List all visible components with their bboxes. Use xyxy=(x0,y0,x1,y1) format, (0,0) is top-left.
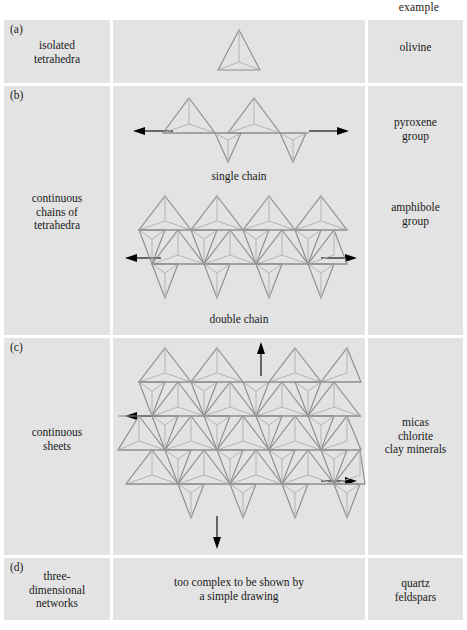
figure-header: example xyxy=(0,0,467,20)
tetrahedron-up xyxy=(321,348,361,382)
tetrahedron-down xyxy=(295,230,321,264)
row-a-structure-cell: (a) isolated tetrahedra xyxy=(4,20,110,83)
tetrahedron-up xyxy=(308,382,360,416)
tetrahedron-down xyxy=(165,450,191,484)
tetrahedron-down xyxy=(191,382,217,416)
tetrahedron-up xyxy=(126,450,178,484)
tetrahedron-up xyxy=(256,230,308,264)
row-d-example-cell: quartz feldspars xyxy=(368,558,463,620)
tetrahedron-down xyxy=(295,382,321,416)
row-b-label: (b) xyxy=(10,89,23,101)
up-arrow-icon xyxy=(257,342,265,376)
row-d-diagram-text: too complex to be shown by a simple draw… xyxy=(113,576,365,603)
tetrahedron-up xyxy=(152,382,204,416)
tetrahedron-up xyxy=(269,348,321,382)
tetrahedron-up xyxy=(139,348,191,382)
tetrahedron-up xyxy=(139,196,191,230)
tetrahedron-up xyxy=(178,450,230,484)
tetrahedron-up xyxy=(191,348,243,382)
tetrahedron-up xyxy=(191,196,243,230)
tetrahedron-down xyxy=(204,416,230,450)
row-c-example-text: micas chlorite clay minerals xyxy=(368,416,463,457)
structures-table: (a) isolated tetrahedra olivine (b) cont… xyxy=(4,20,463,624)
tetrahedron-up xyxy=(256,382,308,416)
tetrahedron-up xyxy=(295,196,347,230)
tetrahedron-down xyxy=(308,264,334,298)
tetrahedron-down xyxy=(204,264,230,298)
tetrahedron-down xyxy=(256,416,282,450)
tetrahedron-up xyxy=(204,382,256,416)
tetrahedron-down xyxy=(256,264,282,298)
row-d-structure-text: three- dimensional networks xyxy=(4,570,110,611)
tetrahedron-down xyxy=(282,484,308,518)
tetrahedron-up xyxy=(163,98,215,133)
row-d-structure-cell: (d) three- dimensional networks xyxy=(4,558,110,620)
tetrahedron-down xyxy=(334,484,360,518)
tetrahedron-up xyxy=(204,230,256,264)
row-b-example-amphibole: amphibole group xyxy=(368,201,463,228)
tetrahedron-up xyxy=(228,98,280,133)
tetrahedron-down xyxy=(269,450,295,484)
row-c-structure-text: continuous sheets xyxy=(4,426,110,453)
tetrahedron-down xyxy=(230,484,256,518)
row-a-example-text: olivine xyxy=(368,41,463,55)
single-chain-caption: single chain xyxy=(113,170,365,182)
silicate-structures-figure: example (a) isolated tetrahedra olivine xyxy=(0,0,467,630)
row-b-structure-text: continuous chains of tetrahedra xyxy=(4,192,110,233)
tetrahedron-up xyxy=(217,416,269,450)
tetrahedron-down xyxy=(139,230,165,264)
tetrahedron-up xyxy=(282,450,334,484)
row-b-example-pyroxene: pyroxene group xyxy=(368,116,463,143)
row-b-structure-cell: (b) continuous chains of tetrahedra xyxy=(4,86,110,335)
tetrahedron-up xyxy=(334,450,365,484)
tetrahedron-up xyxy=(152,230,204,264)
tetrahedron-up xyxy=(269,416,321,450)
continuous-sheet-diagram xyxy=(113,338,365,555)
row-c-diagram-cell xyxy=(113,338,365,555)
tetrahedron-down xyxy=(280,133,306,162)
tetrahedron-down xyxy=(139,382,165,416)
down-arrow-icon xyxy=(213,516,221,549)
tetrahedron-glyph xyxy=(218,30,260,70)
row-a-diagram-cell xyxy=(113,20,365,83)
row-d-example-text: quartz feldspars xyxy=(368,577,463,604)
header-example-label: example xyxy=(371,1,467,13)
tetrahedron-up xyxy=(165,416,217,450)
row-c-structure-cell: (c) continuous sheets xyxy=(4,338,110,555)
tetrahedron-down xyxy=(308,416,334,450)
tetrahedron-down xyxy=(243,382,269,416)
tetrahedron-down xyxy=(215,133,241,162)
tetrahedron-down xyxy=(321,450,347,484)
tetrahedron-down xyxy=(152,264,178,298)
tetrahedron-down xyxy=(178,484,204,518)
row-a-structure-text: isolated tetrahedra xyxy=(4,39,110,66)
tetrahedron-up xyxy=(243,196,295,230)
double-chain-diagram xyxy=(113,190,365,330)
tetrahedron-up xyxy=(230,450,282,484)
row-a-label: (a) xyxy=(10,23,23,35)
row-b-example-cell: pyroxene group amphibole group xyxy=(368,86,463,335)
tetrahedron-down xyxy=(243,230,269,264)
double-chain-caption: double chain xyxy=(113,313,365,325)
isolated-tetrahedron-diagram xyxy=(113,20,365,83)
row-a-example-cell: olivine xyxy=(368,20,463,83)
row-c-example-cell: micas chlorite clay minerals xyxy=(368,338,463,555)
right-arrow-icon xyxy=(309,127,349,135)
tetrahedron-down xyxy=(152,416,178,450)
row-d-diagram-cell: too complex to be shown by a simple draw… xyxy=(113,558,365,620)
tetrahedron-down xyxy=(217,450,243,484)
row-c-label: (c) xyxy=(10,341,23,353)
tetrahedron-down xyxy=(191,230,217,264)
row-b-diagram-cell: single chain xyxy=(113,86,365,335)
